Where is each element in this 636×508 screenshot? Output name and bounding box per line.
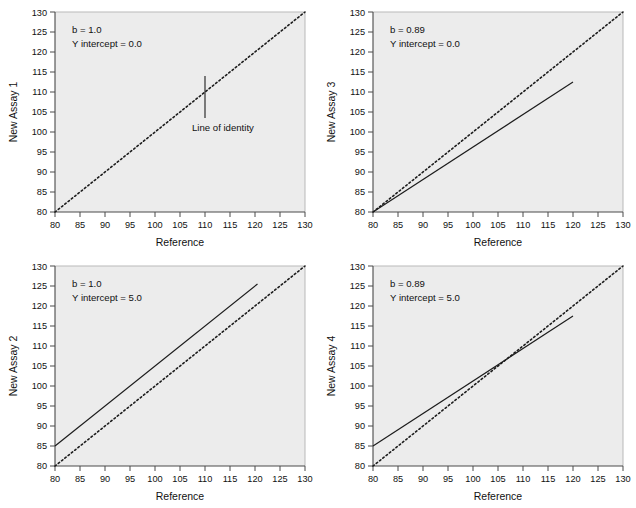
panel-assay-4-canvas: 80 85 90 95 100 105 110 115 120 125 130 [318, 254, 636, 508]
x-tick-label: 85 [75, 220, 85, 230]
x-tick-label: 110 [516, 474, 531, 484]
y-tick-label: 80 [37, 207, 47, 217]
y-tick-label: 100 [32, 381, 47, 391]
x-tick-label: 100 [147, 220, 162, 230]
panel-assay-2: 80 85 90 95 100 105 110 115 120 125 130 [0, 254, 318, 508]
y-tick-label: 120 [32, 301, 47, 311]
y-tick-label: 85 [355, 441, 365, 451]
annotation-intercept: Y intercept = 0.0 [72, 38, 142, 49]
x-tick-label: 90 [100, 220, 110, 230]
x-axis-title: Reference [156, 236, 205, 248]
y-axis-title: New Assay 2 [7, 335, 19, 396]
x-tick-label: 100 [465, 474, 480, 484]
x-tick-label: 100 [147, 474, 162, 484]
x-tick-label: 125 [590, 220, 605, 230]
figure-regression-panels: 80 85 90 95 100 105 110 115 120 125 130 [0, 0, 636, 508]
x-tick-label: 120 [565, 220, 580, 230]
y-tick-label: 115 [32, 67, 47, 77]
annotation-intercept: Y intercept = 5.0 [390, 292, 460, 303]
y-tick-label: 85 [37, 441, 47, 451]
y-tick-label: 95 [37, 401, 47, 411]
y-tick-label: 85 [37, 187, 47, 197]
x-tick-label: 115 [541, 220, 556, 230]
x-tick-label: 120 [565, 474, 580, 484]
y-tick-label: 95 [355, 147, 365, 157]
y-tick-label: 90 [355, 167, 365, 177]
x-tick-label: 95 [125, 220, 135, 230]
y-tick-label: 105 [350, 361, 365, 371]
x-tick-label: 85 [75, 474, 85, 484]
annotation-slope: b = 1.0 [72, 278, 102, 289]
x-axis-title: Reference [474, 236, 523, 248]
x-axis-title: Reference [156, 490, 205, 502]
y-tick-label: 110 [32, 87, 47, 97]
x-tick-label: 80 [368, 220, 378, 230]
annotation-slope: b = 1.0 [72, 24, 102, 35]
y-tick-label: 105 [32, 107, 47, 117]
x-tick-label: 85 [393, 220, 403, 230]
panel-assay-3-canvas: 80 85 90 95 100 105 110 115 120 125 130 [318, 0, 636, 254]
annotation-slope: b = 0.89 [390, 24, 425, 35]
y-tick-label: 90 [37, 167, 47, 177]
x-tick-label: 90 [418, 474, 428, 484]
y-tick-label: 85 [355, 187, 365, 197]
x-tick-label: 85 [393, 474, 403, 484]
y-tick-label: 95 [37, 147, 47, 157]
y-tick-label: 120 [350, 301, 365, 311]
y-tick-label: 90 [355, 421, 365, 431]
x-tick-label: 80 [50, 220, 60, 230]
y-tick-label: 120 [32, 47, 47, 57]
y-tick-label: 115 [350, 321, 365, 331]
y-tick-label: 130 [350, 262, 365, 272]
x-tick-label: 125 [272, 474, 287, 484]
panel-assay-1-canvas: 80 85 90 95 100 105 110 115 120 125 130 [0, 0, 318, 254]
y-tick-label: 80 [37, 461, 47, 471]
x-tick-label: 120 [247, 220, 262, 230]
y-tick-label: 110 [350, 341, 365, 351]
x-tick-label: 80 [368, 474, 378, 484]
annotation-intercept: Y intercept = 5.0 [72, 292, 142, 303]
x-tick-label: 105 [490, 220, 505, 230]
x-tick-label: 95 [443, 474, 453, 484]
y-axis-title: New Assay 3 [325, 81, 337, 142]
y-axis-title: New Assay 4 [325, 335, 337, 396]
x-tick-label: 105 [490, 474, 505, 484]
y-tick-label: 80 [355, 461, 365, 471]
y-tick-label: 105 [32, 361, 47, 371]
x-tick-label: 115 [223, 220, 238, 230]
y-tick-label: 125 [350, 27, 365, 37]
x-tick-label: 105 [172, 474, 187, 484]
y-tick-label: 105 [350, 107, 365, 117]
annotation-slope: b = 0.89 [390, 278, 425, 289]
y-tick-label: 100 [350, 127, 365, 137]
line-of-identity-callout-label: Line of identity [192, 122, 254, 133]
x-tick-label: 110 [198, 474, 213, 484]
y-tick-label: 130 [32, 262, 47, 272]
y-tick-label: 110 [350, 87, 365, 97]
y-tick-label: 90 [37, 421, 47, 431]
y-tick-label: 80 [355, 207, 365, 217]
x-tick-label: 125 [590, 474, 605, 484]
y-tick-label: 125 [350, 281, 365, 291]
x-tick-label: 125 [272, 220, 287, 230]
panel-assay-3: 80 85 90 95 100 105 110 115 120 125 130 [318, 0, 636, 254]
y-tick-label: 125 [32, 27, 47, 37]
x-tick-label: 95 [443, 220, 453, 230]
panel-assay-4: 80 85 90 95 100 105 110 115 120 125 130 [318, 254, 636, 508]
x-axis-title: Reference [474, 490, 523, 502]
x-tick-label: 130 [615, 220, 630, 230]
x-tick-label: 130 [297, 474, 312, 484]
x-tick-label: 110 [516, 220, 531, 230]
x-tick-label: 90 [100, 474, 110, 484]
y-tick-label: 130 [32, 8, 47, 18]
y-tick-label: 100 [350, 381, 365, 391]
x-tick-label: 100 [465, 220, 480, 230]
x-tick-label: 130 [615, 474, 630, 484]
panel-assay-1: 80 85 90 95 100 105 110 115 120 125 130 [0, 0, 318, 254]
y-tick-label: 115 [32, 321, 47, 331]
x-tick-label: 105 [172, 220, 187, 230]
x-tick-label: 95 [125, 474, 135, 484]
annotation-intercept: Y intercept = 0.0 [390, 38, 460, 49]
y-tick-label: 95 [355, 401, 365, 411]
x-tick-label: 130 [297, 220, 312, 230]
